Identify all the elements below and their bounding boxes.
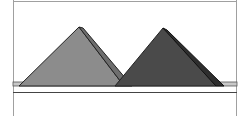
left-pyramid-face xyxy=(19,27,124,86)
right-pyramid-face xyxy=(115,28,216,86)
right-pyramid xyxy=(115,28,224,86)
pyramids-diagram xyxy=(0,0,248,116)
left-pyramid xyxy=(19,27,132,86)
